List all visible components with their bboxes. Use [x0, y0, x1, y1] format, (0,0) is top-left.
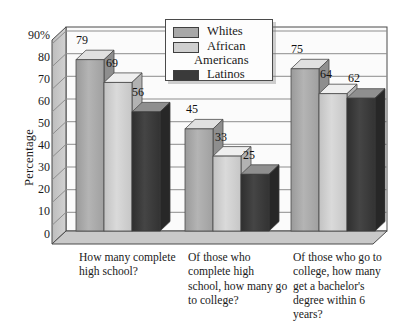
legend-swatch-whites-icon — [173, 27, 199, 38]
data-label-g2-african-americans: 33 — [201, 131, 241, 143]
legend-label-whites: Whites — [207, 24, 243, 39]
legend-label-latinos: Latinos — [207, 67, 245, 82]
legend: Whites African Americans Latinos — [165, 19, 273, 81]
x-axis-label-group-3: Of those who go to college, how many get… — [293, 251, 393, 322]
x-axis-label-group-2: Of those who complete high school, how m… — [188, 251, 288, 308]
legend-label-americans: Americans — [194, 53, 249, 68]
data-label-g2-whites: 45 — [172, 103, 212, 115]
legend-swatch-african-americans-icon — [173, 42, 199, 53]
legend-label-african: African — [207, 39, 245, 54]
data-label-g1-whites: 79 — [62, 34, 102, 46]
bar-chart: Percentage 90% 80 70 60 50 40 30 20 10 0 — [0, 0, 395, 329]
data-label-g3-whites: 75 — [277, 43, 317, 55]
data-label-g1-african-americans: 69 — [92, 57, 132, 69]
bar-g1-latinos — [132, 102, 170, 231]
bar-g3-latinos — [347, 89, 385, 231]
data-label-g2-latinos: 25 — [229, 149, 269, 161]
x-axis-label-group-1: How many complete high school? — [79, 251, 183, 280]
legend-swatch-latinos-icon — [173, 70, 199, 81]
data-label-g3-latinos: 62 — [334, 72, 374, 84]
data-label-g1-latinos: 56 — [118, 86, 158, 98]
bar-g2-latinos — [241, 165, 279, 231]
